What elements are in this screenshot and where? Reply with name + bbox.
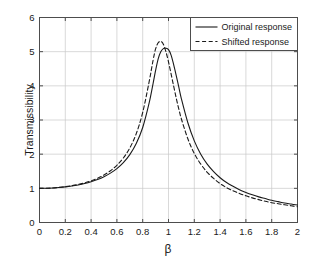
svg-text:2: 2: [295, 226, 300, 237]
svg-text:2: 2: [29, 149, 34, 160]
svg-text:4: 4: [29, 80, 34, 91]
svg-text:1.4: 1.4: [213, 226, 226, 237]
legend-box[interactable]: Original responseShifted response: [191, 18, 298, 51]
plot-canvas: 00.20.40.60.811.21.41.61.820123456 Origi…: [0, 0, 316, 266]
svg-text:1.8: 1.8: [265, 226, 278, 237]
svg-text:6: 6: [29, 12, 34, 23]
svg-text:1.2: 1.2: [188, 226, 201, 237]
svg-text:0.2: 0.2: [59, 226, 72, 237]
svg-text:0.4: 0.4: [84, 226, 97, 237]
svg-text:3: 3: [29, 114, 34, 125]
svg-text:5: 5: [29, 46, 34, 57]
svg-text:0: 0: [29, 217, 34, 228]
legend-label: Shifted response: [222, 37, 290, 47]
transmissibility-chart-figure: Transmissibility β 00.20.40.60.811.21.41…: [0, 0, 316, 266]
svg-text:0: 0: [37, 226, 42, 237]
svg-text:1.6: 1.6: [239, 226, 252, 237]
svg-text:0.8: 0.8: [136, 226, 149, 237]
svg-text:1: 1: [29, 183, 34, 194]
svg-text:0.6: 0.6: [110, 226, 123, 237]
svg-text:1: 1: [166, 226, 171, 237]
legend-label: Original response: [222, 22, 293, 32]
